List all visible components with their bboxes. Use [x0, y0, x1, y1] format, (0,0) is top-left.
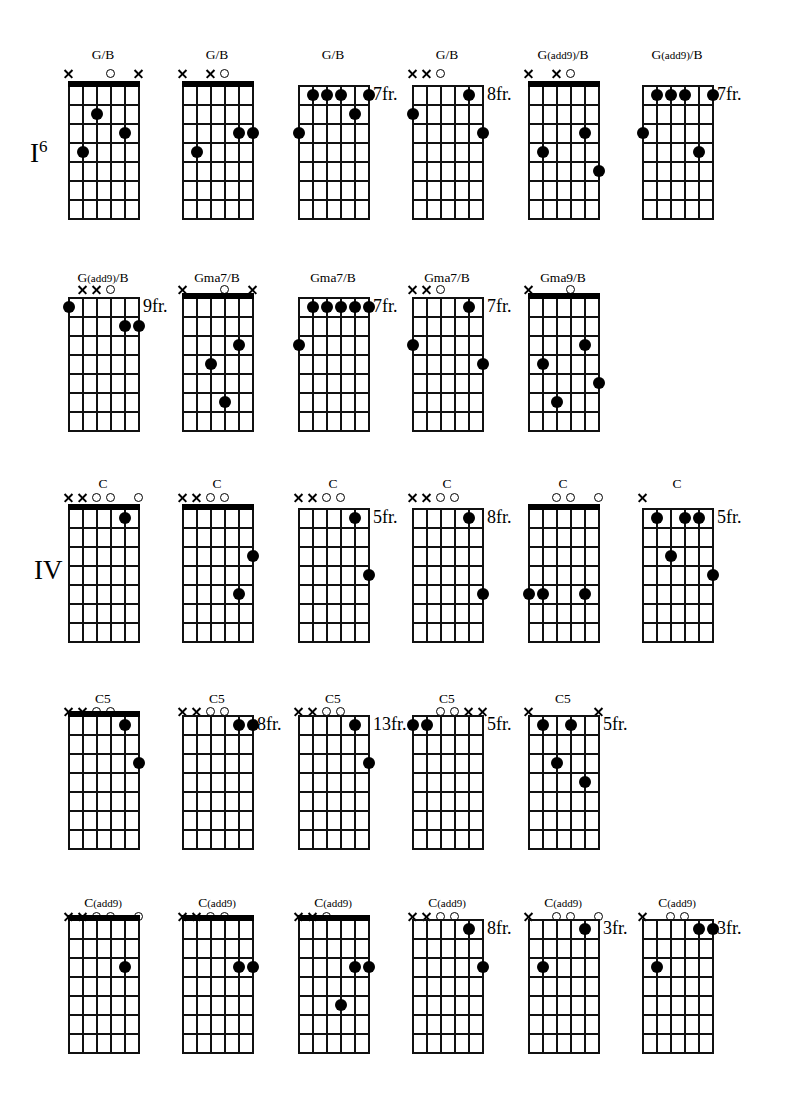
open-string-o-icon — [105, 284, 116, 295]
string-line — [340, 508, 342, 643]
starting-fret-label: 5fr. — [717, 508, 742, 526]
starting-fret-label: 8fr. — [257, 715, 282, 733]
string-line — [670, 508, 672, 643]
open-string-o-icon — [219, 68, 230, 79]
fret-line — [298, 957, 370, 959]
fret-line — [182, 546, 254, 548]
string-markers — [412, 284, 482, 298]
chord-diagram: C(add9)3fr. — [528, 919, 598, 1052]
string-line — [298, 919, 300, 1054]
string-line — [440, 715, 442, 850]
string-line — [354, 85, 356, 220]
fret-line — [412, 919, 484, 921]
open-string-o-icon — [335, 492, 346, 503]
fret-line — [412, 180, 484, 182]
fret-line — [528, 1033, 600, 1035]
muted-string-x-icon — [91, 284, 102, 295]
fret-line — [182, 335, 254, 337]
fret-line — [298, 810, 370, 812]
fret-line — [68, 527, 140, 529]
fret-line — [68, 142, 140, 144]
string-line — [412, 919, 414, 1054]
fret-line — [298, 772, 370, 774]
string-line — [426, 508, 428, 643]
fret-line — [642, 104, 714, 106]
muted-string-x-icon — [421, 492, 432, 503]
string-line — [584, 85, 586, 220]
string-line — [210, 508, 212, 643]
fret-line — [68, 976, 140, 978]
fret-line — [528, 354, 600, 356]
finger-dot — [477, 588, 489, 600]
muted-string-x-icon — [407, 284, 418, 295]
fret-line — [298, 848, 370, 850]
fret-line — [68, 810, 140, 812]
fretboard-grid — [528, 919, 598, 1052]
string-line — [368, 919, 370, 1054]
fret-line — [68, 199, 140, 201]
string-line — [224, 508, 226, 643]
fret-line — [68, 995, 140, 997]
fret-line — [182, 123, 254, 125]
fret-line — [412, 161, 484, 163]
finger-dot — [349, 108, 361, 120]
string-line — [238, 919, 240, 1054]
fret-line — [642, 957, 714, 959]
chord-diagram: C(add9) — [182, 919, 252, 1052]
string-line — [82, 919, 84, 1054]
finger-dot — [247, 550, 259, 562]
muted-string-x-icon — [421, 68, 432, 79]
finger-dot — [219, 396, 231, 408]
fret-line — [298, 373, 370, 375]
string-line — [224, 919, 226, 1054]
fret-line — [68, 354, 140, 356]
nut-bar — [182, 81, 254, 87]
chord-diagram: C — [68, 508, 138, 641]
fret-line — [642, 622, 714, 624]
finger-dot — [579, 923, 591, 935]
string-line — [570, 508, 572, 643]
string-line — [298, 715, 300, 850]
chord-diagram: G/B7fr. — [298, 85, 368, 218]
string-line — [354, 919, 356, 1054]
string-line — [312, 297, 314, 432]
chord-name-label: C — [68, 477, 138, 491]
finger-dot — [537, 719, 549, 731]
string-line — [482, 715, 484, 850]
string-line — [312, 85, 314, 220]
chord-diagram: C — [528, 508, 598, 641]
string-markers — [412, 492, 482, 506]
string-line — [556, 85, 558, 220]
fret-line — [182, 1052, 254, 1054]
string-line — [124, 85, 126, 220]
fretboard-grid — [298, 85, 368, 218]
finger-dot — [233, 719, 245, 731]
string-line — [454, 85, 456, 220]
chord-name-label: Gma9/B — [528, 271, 598, 285]
string-line — [440, 508, 442, 643]
finger-dot — [665, 550, 677, 562]
string-line — [340, 715, 342, 850]
string-line — [468, 919, 470, 1054]
nut-bar — [298, 915, 370, 921]
string-line — [426, 85, 428, 220]
finger-dot — [579, 588, 591, 600]
fret-line — [68, 218, 140, 220]
muted-string-x-icon — [191, 492, 202, 503]
fretboard-grid — [182, 919, 252, 1052]
string-line — [584, 508, 586, 643]
fret-line — [68, 791, 140, 793]
muted-string-x-icon — [307, 492, 318, 503]
string-markers — [412, 68, 482, 82]
finger-dot — [537, 358, 549, 370]
open-string-o-icon — [435, 284, 446, 295]
fret-line — [298, 430, 370, 432]
fret-line — [182, 957, 254, 959]
fret-line — [298, 316, 370, 318]
fret-line — [412, 316, 484, 318]
string-line — [312, 508, 314, 643]
nut-bar — [182, 915, 254, 921]
string-line — [252, 85, 254, 220]
chord-diagram: Gma7/B7fr. — [298, 297, 368, 430]
fret-line — [528, 161, 600, 163]
